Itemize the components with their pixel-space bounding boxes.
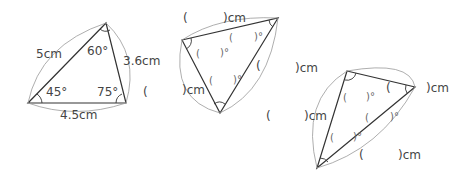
side-left-open: (: [266, 110, 271, 122]
angle-b-close: )°: [390, 112, 399, 122]
side-left-close: )cm: [182, 84, 205, 96]
angle-a-close: )°: [366, 92, 375, 102]
side-bottom-close: )cm: [398, 149, 421, 161]
angle-c-close: )°: [353, 132, 362, 142]
stray-paren: (: [143, 86, 148, 98]
angle-b-open: (: [365, 113, 369, 123]
side-label-right: 3.6cm: [123, 55, 160, 67]
angle-a-close: )°: [254, 32, 263, 42]
angle-b-open: (: [196, 49, 200, 59]
angle-label-bottom-left: 45°: [46, 86, 67, 98]
angle-c-open: (: [209, 76, 213, 86]
side-right-close: )cm: [295, 62, 318, 74]
side-left-close: )cm: [304, 110, 327, 122]
side-label-left: 5cm: [36, 48, 62, 60]
angle-c-close: )°: [233, 75, 242, 85]
side-label-bottom: 4.5cm: [60, 109, 97, 121]
side-right-close: )cm: [426, 82, 449, 94]
triangle-diagrams: [0, 0, 466, 176]
angle-c-open: (: [330, 133, 334, 143]
side-right-open: (: [256, 60, 261, 72]
side-top-open: (: [183, 12, 188, 24]
side-top-close: )cm: [223, 12, 246, 24]
angle-label-top: 60°: [87, 45, 108, 57]
side-right-open: (: [386, 82, 391, 94]
angle-a-open: (: [229, 33, 233, 43]
angle-b-close: )°: [220, 48, 229, 58]
angle-a-open: (: [343, 93, 347, 103]
side-bottom-open: (: [359, 149, 364, 161]
angle-label-bottom-right: 75°: [97, 86, 118, 98]
